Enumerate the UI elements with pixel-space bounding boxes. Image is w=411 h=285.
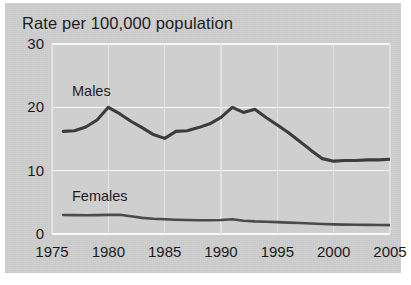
x-axis-tick-label: 2005 (362, 243, 411, 260)
series-line-females (63, 215, 390, 225)
x-axis-tick-label: 1975 (24, 243, 80, 260)
chart-title: Rate per 100,000 population (22, 14, 233, 33)
x-axis-tick-label: 2000 (306, 243, 362, 260)
chart-panel: Rate per 100,000 population 010203019751… (5, 3, 401, 273)
x-axis-tick-label: 1990 (193, 243, 249, 260)
series-line-males (63, 107, 390, 161)
series-canvas (52, 44, 390, 234)
x-axis-tick-label: 1985 (137, 243, 193, 260)
y-axis-tick-label: 10 (10, 162, 44, 179)
x-axis-tick-label: 1995 (249, 243, 305, 260)
y-axis-tick-label: 20 (10, 98, 44, 115)
series-label-males: Males (72, 83, 111, 99)
y-axis-tick-label: 0 (10, 225, 44, 242)
x-axis-tick-label: 1980 (80, 243, 136, 260)
plot-area (52, 44, 390, 234)
y-axis-tick-label: 30 (10, 35, 44, 52)
series-label-females: Females (72, 188, 128, 204)
